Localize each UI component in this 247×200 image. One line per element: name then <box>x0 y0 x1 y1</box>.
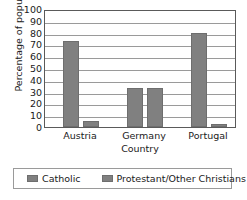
y-tick-label: 30 <box>16 88 42 98</box>
x-tick-label-germany: Germany <box>108 130 180 141</box>
bar-austria-catholic <box>63 41 79 127</box>
bars-layer <box>45 11 235 127</box>
y-tick-label: 10 <box>16 111 42 121</box>
legend-label-protestant: Protestant/Other Christians <box>117 173 246 184</box>
bar-germany-protestant <box>147 88 163 127</box>
y-axis-tick-labels: 100 90 80 70 60 50 40 30 20 10 0 <box>12 10 42 128</box>
x-axis-tick-labels: Austria Germany Portugal <box>44 130 236 144</box>
plot-area <box>44 10 236 128</box>
y-tick-label: 60 <box>16 52 42 62</box>
y-tick-label: 70 <box>16 40 42 50</box>
legend-entry-protestant: Protestant/Other Christians <box>102 173 246 184</box>
legend-swatch-icon <box>102 175 113 182</box>
y-tick-label: 20 <box>16 99 42 109</box>
bar-chart-figure: Percentage of population 100 90 80 70 60… <box>0 0 247 200</box>
y-tick-label: 90 <box>16 17 42 27</box>
x-axis-title: Country <box>44 143 236 154</box>
y-tick-label: 0 <box>16 123 42 133</box>
chart-legend: Catholic Protestant/Other Christians <box>13 168 232 189</box>
x-tick-label-portugal: Portugal <box>172 130 244 141</box>
legend-swatch-icon <box>27 175 38 182</box>
x-tick-label-austria: Austria <box>44 130 116 141</box>
bar-austria-protestant <box>83 121 99 127</box>
y-tick-label: 40 <box>16 76 42 86</box>
legend-entry-catholic: Catholic <box>27 173 81 184</box>
legend-label-catholic: Catholic <box>42 173 81 184</box>
y-tick-label: 80 <box>16 29 42 39</box>
y-tick-label: 50 <box>16 64 42 74</box>
bar-germany-catholic <box>127 88 143 127</box>
y-tick-label: 100 <box>16 5 42 15</box>
bar-portugal-protestant <box>211 124 227 127</box>
bar-portugal-catholic <box>191 33 207 127</box>
